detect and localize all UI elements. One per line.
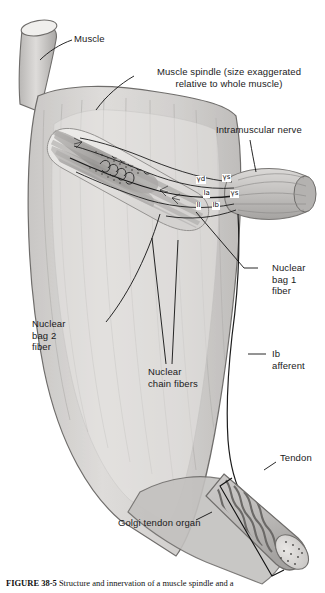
label-ib-afferent: Ib afferent <box>272 348 305 371</box>
label-ia-afferent: Ia <box>203 190 210 198</box>
label-group-ii: II <box>196 202 201 210</box>
label-gamma-dynamic: γd <box>196 176 206 184</box>
nerve-cut-face <box>294 176 316 212</box>
leader-tendon <box>264 462 276 470</box>
label-tendon: Tendon <box>280 452 312 464</box>
label-muscle-spindle: Muscle spindle (size exaggerated relativ… <box>136 66 322 89</box>
label-golgi-tendon-organ: Golgi tendon organ <box>118 517 201 529</box>
figure-caption-number: FIGURE 38-5 <box>6 578 57 588</box>
label-ib-fiber: Ib <box>212 202 220 210</box>
figure-container: Muscle Muscle spindle (size exaggerated … <box>0 0 325 593</box>
leader-intramuscular-nerve <box>250 140 256 172</box>
label-nuclear-bag-1-fiber: Nuclear bag 1 fiber <box>272 262 305 297</box>
figure-caption: FIGURE 38-5 Structure and innervation of… <box>6 578 325 588</box>
label-intramuscular-nerve: Intramuscular nerve <box>216 124 302 136</box>
label-nuclear-chain-fibers: Nuclear chain fibers <box>148 366 198 389</box>
label-gamma-static: γs <box>222 174 231 182</box>
figure-caption-text: Structure and innervation of a muscle sp… <box>59 578 234 588</box>
label-gamma-static-2: γs <box>230 190 239 198</box>
label-nuclear-bag-2-fiber: Nuclear bag 2 fiber <box>32 318 65 353</box>
label-muscle: Muscle <box>74 33 105 45</box>
